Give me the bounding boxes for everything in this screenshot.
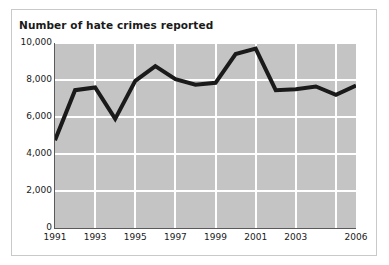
x-tick-label: 1995	[124, 232, 147, 242]
plot-area	[55, 43, 356, 228]
y-tick-label: 10,000	[5, 37, 52, 47]
x-axis-line	[54, 228, 356, 229]
y-axis-tick-labels: 02,0004,0006,0008,00010,000	[3, 0, 52, 265]
x-tick-label: 2001	[244, 232, 267, 242]
y-tick-label: 6,000	[5, 111, 52, 121]
y-tick-label: 2,000	[5, 185, 52, 195]
x-tick-label: 2006	[345, 232, 368, 242]
hate-crimes-line	[55, 49, 356, 141]
chart-figure: Number of hate crimes reported 02,0004,0…	[0, 0, 389, 265]
y-tick-label: 4,000	[5, 148, 52, 158]
x-axis-tick-labels: 19911993199519971999200120032006	[0, 232, 389, 252]
x-tick-label: 1997	[164, 232, 187, 242]
x-tick-label: 1999	[204, 232, 227, 242]
data-series-line	[55, 43, 356, 228]
x-tick-label: 1991	[44, 232, 67, 242]
y-tick-label: 8,000	[5, 74, 52, 84]
x-tick-label: 1993	[84, 232, 107, 242]
y-tick-label: 0	[5, 222, 52, 232]
x-tick-label: 2003	[284, 232, 307, 242]
